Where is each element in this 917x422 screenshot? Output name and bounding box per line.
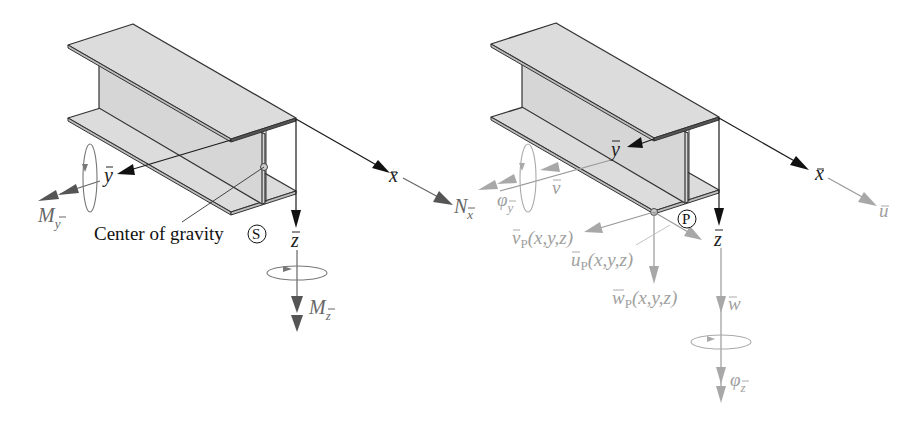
phi-y-arrowhead-2 bbox=[478, 180, 498, 190]
u-p-leader-line bbox=[636, 225, 670, 245]
center-symbol-label: S bbox=[252, 226, 260, 242]
normal-force-line bbox=[403, 178, 440, 198]
x-axis-line bbox=[719, 118, 798, 163]
phi-y-rotation-curl bbox=[520, 144, 536, 212]
x-axis-label: x bbox=[814, 162, 824, 184]
moment-z-arrowhead-1 bbox=[291, 296, 303, 313]
moment-y-rotation-curl bbox=[83, 144, 97, 212]
phi-y-arrowhead-1 bbox=[497, 174, 517, 184]
phi-y-label: φy bbox=[497, 189, 514, 215]
w-p-arrowhead bbox=[649, 266, 659, 284]
moment-z-label: Mz bbox=[308, 296, 331, 323]
x-axis-arrowhead bbox=[790, 156, 809, 170]
u-p-label: uP(x,y,z) bbox=[571, 249, 633, 273]
moment-y-arrowhead-2 bbox=[38, 190, 59, 201]
w-displacement-label: w bbox=[728, 293, 741, 314]
right-panel: x u y v φy z w φz bbox=[478, 23, 889, 403]
phi-z-label: φz bbox=[730, 369, 746, 395]
beam-diagram: x Nx y My z Mz Center of gravi bbox=[0, 0, 917, 422]
w-displacement-arrowhead bbox=[716, 296, 726, 313]
v-p-arrowhead bbox=[584, 222, 603, 233]
u-displacement-arrowhead bbox=[858, 192, 877, 206]
v-displacement-arrowhead bbox=[540, 162, 560, 172]
moment-z-arrowhead-2 bbox=[291, 315, 303, 332]
u-displacement-line bbox=[828, 178, 866, 199]
point-p-symbol: P bbox=[682, 211, 690, 227]
center-of-gravity-caption: Center of gravity bbox=[94, 223, 224, 244]
v-p-label: vP(x,y,z) bbox=[512, 227, 573, 251]
moment-y-arrowhead-1 bbox=[58, 184, 79, 195]
phi-z-arrowhead-1 bbox=[716, 367, 726, 384]
moment-y-label: My bbox=[37, 204, 61, 231]
x-axis-arrowhead bbox=[372, 160, 390, 173]
x-axis-label: x bbox=[388, 164, 398, 186]
u-displacement-label: u bbox=[879, 200, 889, 221]
i-beam-right bbox=[491, 23, 719, 216]
moment-z-curl-arrow bbox=[283, 266, 292, 272]
w-p-label: wP(x,y,z) bbox=[612, 287, 677, 311]
z-axis-label: z bbox=[713, 228, 722, 250]
z-axis-arrowhead bbox=[291, 210, 301, 228]
i-beam-left bbox=[68, 24, 296, 215]
z-axis-arrowhead bbox=[714, 208, 724, 226]
v-p-line bbox=[600, 212, 654, 228]
left-panel: x Nx y My z Mz Center of gravi bbox=[37, 24, 475, 332]
y-axis-arrowhead bbox=[117, 164, 135, 175]
x-axis-line bbox=[296, 119, 380, 167]
normal-force-arrowhead bbox=[433, 191, 453, 205]
phi-z-arrowhead-2 bbox=[716, 386, 726, 403]
phi-z-curl-arrow bbox=[707, 336, 715, 342]
